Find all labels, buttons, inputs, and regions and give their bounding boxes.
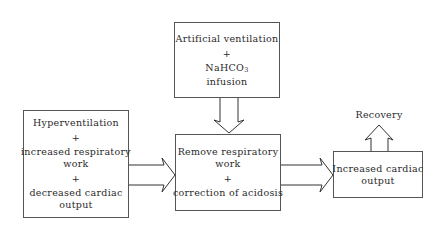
node-remove-respiratory-work: Remove respiratory work + correction of … xyxy=(175,134,281,211)
nahco3-main: NaHCO xyxy=(205,62,244,73)
node-hyperventilation: Hyperventilation + increased respiratory… xyxy=(23,110,129,218)
node-left-plus-1: + xyxy=(72,133,80,142)
node-mid-plus: + xyxy=(224,174,232,183)
node-left-line-4: decreased cardiac xyxy=(29,187,122,199)
node-left-line-2: increased respiratory xyxy=(21,146,131,158)
node-right-line-1: Increased cardiac xyxy=(332,163,423,175)
node-mid-line-2: work xyxy=(215,158,240,170)
arrow-top-to-middle-icon xyxy=(214,98,244,133)
diagram-canvas: Hyperventilation + increased respiratory… xyxy=(0,0,445,231)
node-top-line-2: NaHCO3 xyxy=(205,62,248,76)
node-top-line-1: Artificial ventilation xyxy=(176,33,279,45)
node-right-line-2: output xyxy=(361,175,394,187)
node-mid-line-3: correction of acidosis xyxy=(173,187,283,199)
node-left-line-5: output xyxy=(59,199,92,211)
node-mid-line-1: Remove respiratory xyxy=(178,146,279,158)
node-top-line-3: infusion xyxy=(207,76,248,88)
node-increased-cardiac-output: Increased cardiac output xyxy=(333,151,423,198)
arrow-left-to-middle-icon xyxy=(129,158,175,192)
arrow-right-to-recovery-icon xyxy=(365,125,393,151)
nahco3-subscript: 3 xyxy=(244,66,248,74)
node-left-plus-2: + xyxy=(72,174,80,183)
node-artificial-ventilation: Artificial ventilation + NaHCO3 infusion xyxy=(174,22,280,98)
node-top-plus: + xyxy=(223,49,231,58)
node-left-line-1: Hyperventilation xyxy=(33,117,119,129)
node-recovery-label: Recovery xyxy=(345,109,413,120)
arrow-middle-to-right-icon xyxy=(281,158,333,192)
node-left-line-3: work xyxy=(63,158,88,170)
